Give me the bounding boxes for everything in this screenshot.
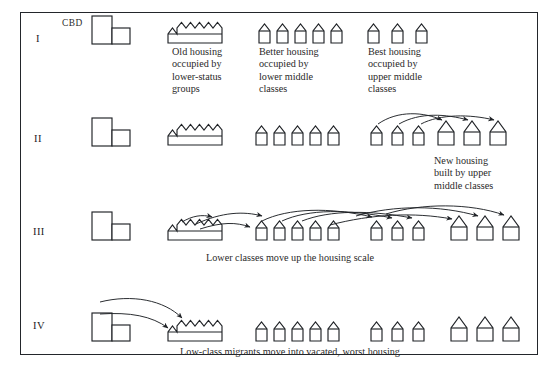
small-house-group-4a: [256, 322, 339, 341]
cbd-block-2: [92, 118, 130, 146]
cbd-block-3: [92, 212, 130, 240]
large-house-group-2: [438, 121, 506, 145]
stage-2-arrows: [378, 114, 494, 124]
stage-1-shapes: [92, 16, 427, 44]
small-house-group-2b: [371, 126, 424, 145]
large-house-group-4: [451, 317, 519, 341]
terrace-row-4: [168, 321, 222, 342]
terrace-row-1: [168, 23, 222, 44]
small-house-group-1a: [259, 24, 342, 43]
stage-3-shapes: [92, 206, 519, 240]
small-house-group-3a: [256, 221, 339, 240]
cbd-block-4: [92, 313, 130, 341]
stage-4-shapes: [92, 299, 519, 341]
small-house-group-1b: [368, 24, 427, 43]
diagram-vector-layer: [0, 0, 555, 382]
stage-2-shapes: [92, 114, 506, 146]
terrace-row-3: [168, 220, 222, 241]
large-house-group-3: [451, 216, 519, 240]
small-house-group-4b: [371, 322, 424, 341]
small-house-group-2a: [256, 126, 339, 145]
terrace-row-2: [168, 125, 222, 146]
diagram-canvas: I II III IV CBD Old housing occupied by …: [0, 0, 555, 382]
cbd-block-1: [92, 16, 130, 44]
small-house-group-3b: [371, 221, 424, 240]
